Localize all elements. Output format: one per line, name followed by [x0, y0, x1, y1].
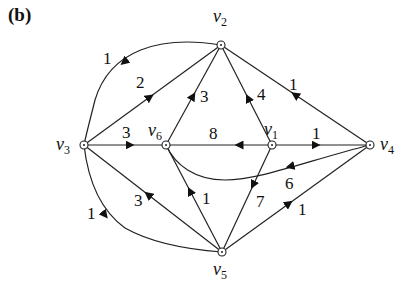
weight-v5-v6: 1 [202, 189, 211, 208]
weight-v1-v5: 7 [256, 192, 265, 211]
edge-v1-v5 [222, 145, 272, 252]
weight-v3-v2: 2 [136, 73, 145, 92]
weight-v2-v3: 1 [103, 49, 112, 68]
weight-v4-v2: 1 [289, 75, 298, 94]
weight-v1-v6: 8 [209, 124, 218, 143]
label-v3: v3 [56, 134, 70, 157]
node-v4 [366, 141, 374, 149]
edge-v5-v4 [222, 145, 370, 252]
edge-v5-v6 [166, 145, 222, 252]
weight-v5-v3: 3 [134, 191, 143, 210]
weight-v4-v6: 6 [285, 174, 294, 193]
weight-v5-v4: 1 [298, 200, 307, 219]
edge-v4-v2 [221, 45, 370, 145]
label-v2: v2 [213, 6, 227, 29]
arrow-icon [101, 210, 105, 215]
weight-v6-v2: 3 [200, 87, 209, 106]
node-v2 [217, 41, 225, 49]
edge-v4-v6 [166, 145, 370, 180]
label-v4: v4 [380, 134, 394, 157]
node-v5 [218, 248, 226, 256]
label-v6: v6 [148, 120, 162, 143]
weight-v1-v4: 1 [312, 124, 321, 143]
node-v6 [162, 141, 170, 149]
label-v1: v1 [264, 119, 278, 142]
node-v1 [268, 141, 276, 149]
weight-v3-v6: 3 [122, 123, 131, 142]
weight-v3-v5: 1 [87, 204, 96, 223]
label-v5: v5 [213, 259, 227, 282]
directed-graph: 1 2 3 3 4 1 8 1 6 3 1 1 7 1 v1 v2 v3 v4 … [0, 0, 403, 285]
weight-v1-v2: 4 [257, 85, 266, 104]
node-v3 [80, 141, 88, 149]
